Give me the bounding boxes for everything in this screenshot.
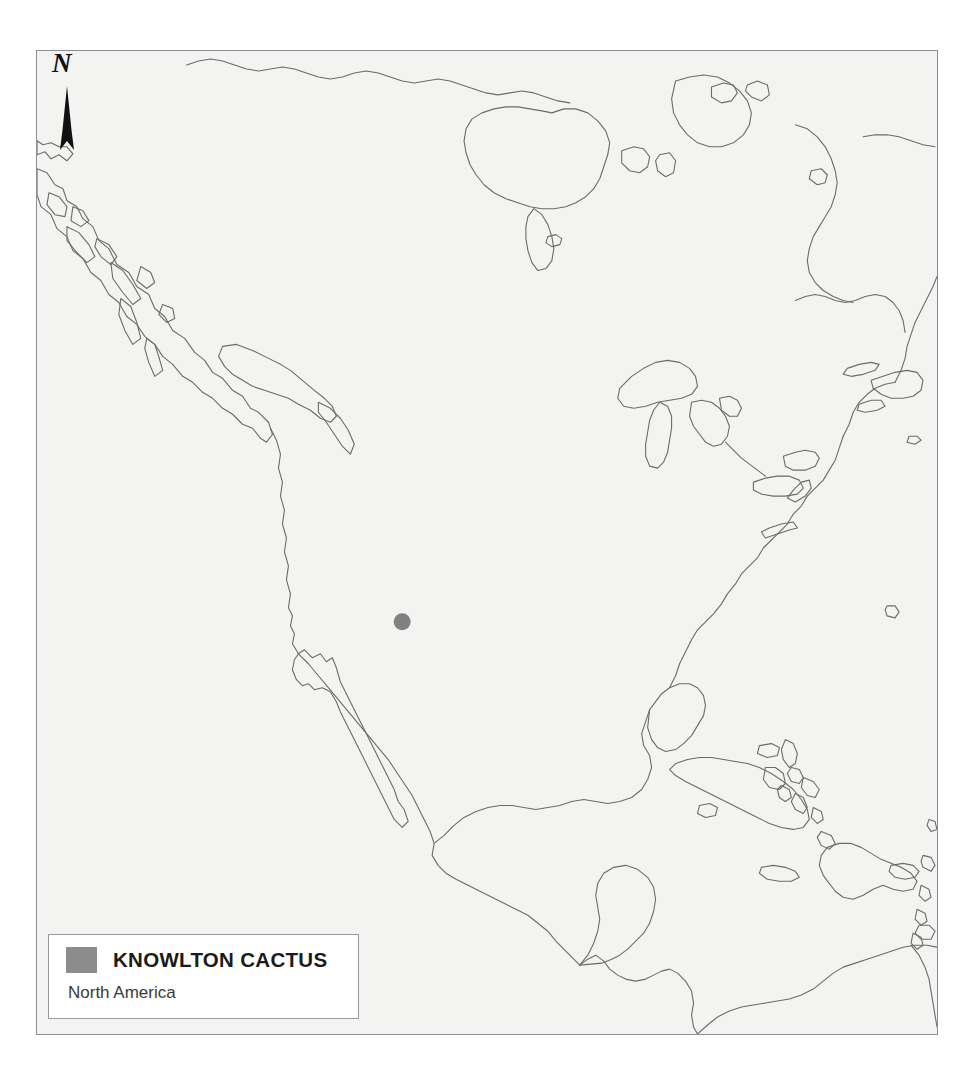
island-bahamas-1 (757, 744, 779, 758)
island-lesser-antilles-1 (927, 819, 937, 831)
great-lakes-outflow (725, 442, 765, 476)
island-juventud (698, 803, 718, 817)
coastlines (37, 59, 937, 1034)
island-arctic-2 (656, 153, 676, 177)
coast-south-america (698, 945, 937, 1034)
coast-gulf-us (434, 710, 652, 844)
legend-box: KNOWLTON CACTUS North America (48, 934, 359, 1019)
james-bay (526, 209, 554, 271)
north-arrow: N (46, 52, 90, 156)
coast-central-america (580, 955, 698, 1034)
peninsula-florida (648, 684, 706, 752)
island-chain-5 (111, 263, 141, 305)
island-bahamas-6 (777, 786, 791, 802)
island-chain-4 (95, 239, 117, 265)
island-bahamas-4 (787, 768, 803, 784)
map-page: N KNOWLTON CACTUS North America (0, 0, 968, 1074)
island-vancouver-tip (318, 402, 354, 454)
island-jamaica (759, 865, 799, 881)
occurrence-point-knowlton-cactus (394, 613, 411, 630)
island-hispaniola (819, 843, 917, 899)
long-island (761, 522, 797, 538)
island-haida-gwaii-n (137, 267, 155, 289)
lake-ontario (783, 450, 819, 470)
island-bahamas-5 (801, 778, 819, 798)
island-bermuda (885, 606, 899, 618)
legend-title: KNOWLTON CACTUS (113, 948, 327, 972)
island-puerto-rico (889, 863, 919, 879)
island-arctic-4 (745, 81, 769, 101)
coast-south-america-east (911, 945, 937, 1027)
island-lesser-antilles-4 (915, 909, 927, 925)
island-bahamas-8 (811, 807, 823, 823)
lake-michigan (646, 402, 672, 468)
lake-superior (618, 360, 698, 408)
north-arrow-label: N (52, 50, 72, 77)
coast-maritimes (843, 382, 895, 436)
coast-arctic-mainland (187, 59, 570, 103)
coast-greenland-sw (795, 125, 853, 303)
island-baffin (672, 75, 752, 147)
legend-subtitle: North America (68, 983, 176, 1003)
map-canvas (37, 51, 937, 1034)
legend-color-swatch (66, 947, 97, 973)
island-bahamas-9 (817, 831, 835, 849)
island-haida-gwaii-s (119, 298, 141, 344)
island-arctic-3 (712, 83, 738, 103)
island-small-2 (145, 338, 163, 376)
island-chain-3 (67, 227, 95, 263)
island-chain-1 (47, 193, 67, 217)
hudson-bay-island (546, 235, 562, 247)
coast-greenland-ne (863, 135, 935, 147)
island-chain-2 (71, 207, 89, 227)
coast-us-west (270, 428, 298, 654)
peninsula-yucatan (580, 865, 656, 965)
island-cuba (670, 758, 810, 830)
island-lesser-antilles-2 (921, 855, 935, 871)
island-sable (907, 436, 921, 444)
greenland-islet (809, 169, 827, 185)
coast-labrador (895, 277, 937, 383)
north-arrow-glyph (54, 86, 80, 156)
map-frame (36, 50, 938, 1035)
island-pei (857, 400, 885, 412)
island-anticosti (843, 362, 879, 376)
island-newfoundland (871, 370, 923, 398)
peninsula-baja (292, 650, 408, 828)
island-trinidad (915, 925, 935, 939)
cape-cod (787, 480, 811, 502)
hudson-bay (464, 107, 610, 209)
lake-erie (753, 476, 803, 496)
coast-us-atlantic (670, 436, 844, 687)
coast-quebec-north (795, 295, 905, 333)
island-bahamas-2 (781, 740, 797, 768)
lake-huron (690, 400, 730, 446)
island-lesser-antilles-3 (919, 885, 931, 901)
legend-entry: KNOWLTON CACTUS (66, 947, 327, 973)
island-arctic-1 (622, 147, 650, 173)
